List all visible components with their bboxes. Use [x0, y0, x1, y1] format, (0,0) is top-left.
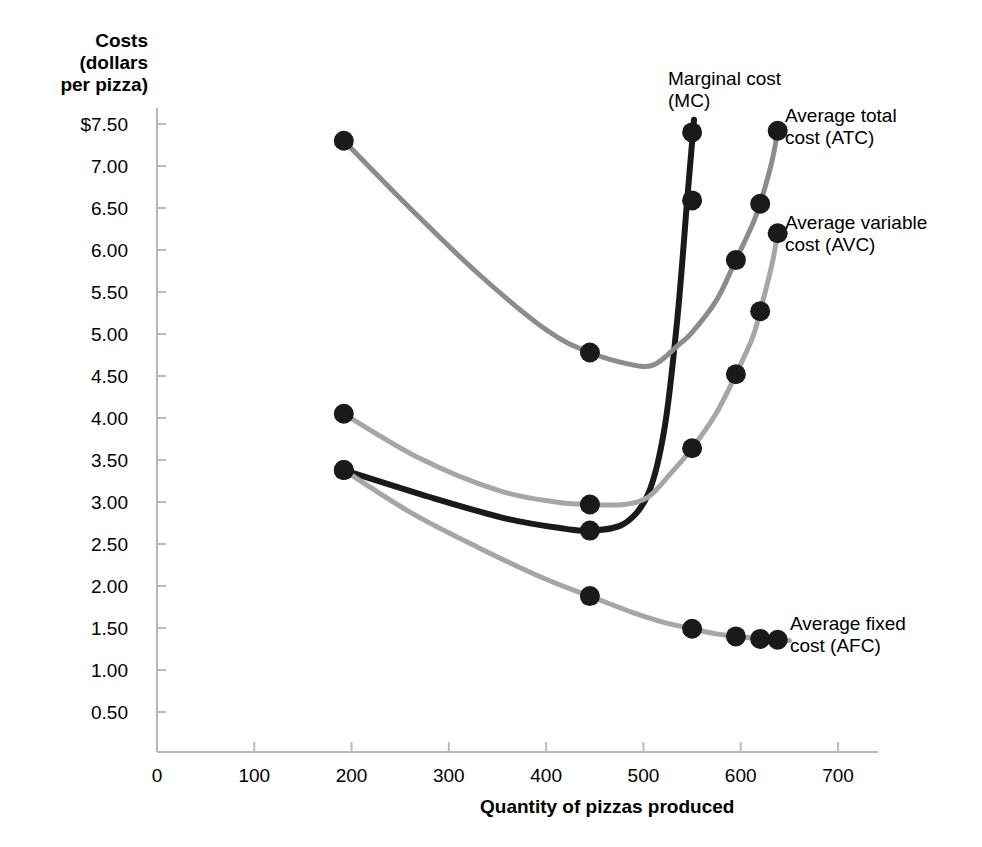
data-point-avc	[726, 364, 746, 384]
y-axis-tick-label: 6.00	[38, 241, 128, 260]
data-point-avc	[750, 301, 770, 321]
data-point-afc	[334, 460, 354, 480]
y-axis-tick-label: $7.50	[38, 115, 128, 134]
data-point-atc	[682, 190, 702, 210]
curve-atc	[344, 131, 778, 367]
y-axis-tick-label: 1.50	[38, 619, 128, 638]
data-point-afc	[768, 630, 788, 650]
y-axis-tick-label: 6.50	[38, 199, 128, 218]
x-axis-tick-label: 300	[414, 766, 484, 785]
curve-label-atc: Average total cost (ATC)	[785, 105, 897, 149]
data-point-mc	[682, 122, 702, 142]
y-axis-tick-label: 2.50	[38, 535, 128, 554]
curve-label-mc: Marginal cost (MC)	[668, 68, 781, 112]
y-axis-tick-label: 5.50	[38, 283, 128, 302]
data-point-atc	[750, 194, 770, 214]
curve-avc	[344, 233, 778, 505]
x-axis-tick-label: 200	[317, 766, 387, 785]
y-axis-title: Costs (dollars per pizza)	[8, 30, 148, 96]
y-axis-tick-label: 7.00	[38, 157, 128, 176]
data-point-atc	[580, 343, 600, 363]
y-axis-tick-label: 1.00	[38, 661, 128, 680]
data-point-avc	[334, 404, 354, 424]
y-axis-tick-label: 4.00	[38, 409, 128, 428]
data-point-afc	[682, 619, 702, 639]
data-point-atc	[334, 131, 354, 151]
x-axis-tick-label: 500	[608, 766, 678, 785]
curve-label-afc: Average fixed cost (AFC)	[790, 613, 906, 657]
y-axis-tick-label: 5.00	[38, 325, 128, 344]
y-axis-tick-label: 3.50	[38, 451, 128, 470]
x-axis-tick-label: 600	[706, 766, 776, 785]
curve-afc	[344, 470, 790, 640]
data-point-afc	[750, 629, 770, 649]
data-point-avc	[682, 438, 702, 458]
y-axis-tick-label: 3.00	[38, 493, 128, 512]
x-axis-tick-label: 400	[511, 766, 581, 785]
x-axis-ticks	[254, 742, 838, 752]
curve-mc	[344, 120, 694, 531]
x-axis-tick-label: 100	[219, 766, 289, 785]
x-axis-title: Quantity of pizzas produced	[480, 796, 900, 818]
x-axis-tick-label: 0	[122, 766, 192, 785]
data-point-avc	[580, 495, 600, 515]
data-point-afc	[580, 586, 600, 606]
y-axis-tick-label: 2.00	[38, 577, 128, 596]
curve-paths	[344, 120, 790, 641]
data-point-atc	[726, 250, 746, 270]
data-point-afc	[726, 626, 746, 646]
y-axis-tick-label: 0.50	[38, 703, 128, 722]
curve-label-avc: Average variable cost (AVC)	[785, 212, 927, 256]
data-point-mc	[580, 521, 600, 541]
cost-curves-figure: Costs (dollars per pizza) Quantity of pi…	[0, 0, 982, 847]
y-axis-tick-label: 4.50	[38, 367, 128, 386]
x-axis-tick-label: 700	[803, 766, 873, 785]
